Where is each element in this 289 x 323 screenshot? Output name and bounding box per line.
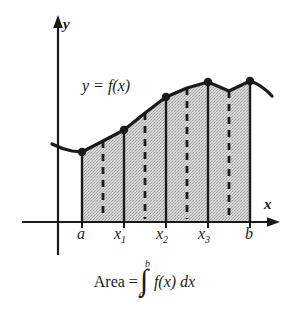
tick-label-a-text: a	[77, 225, 85, 242]
y-axis-label: y	[63, 17, 70, 32]
x-axis-label: x	[264, 197, 272, 212]
tick-label-b-text: b	[245, 225, 253, 242]
tick-label-x3-subscript: 3	[205, 234, 210, 245]
tick-label-x2-subscript: 2	[163, 234, 168, 245]
tick-label-b: b	[245, 226, 253, 242]
tick-label-x2: x2	[156, 226, 168, 245]
integral-area-figure: y x y = f(x) a x1 x2 x3 b Area =b∫af(x) …	[0, 0, 289, 323]
curve-point-b	[246, 77, 254, 85]
curve-point-x1	[120, 126, 128, 134]
integral-lower-limit: a	[139, 288, 144, 299]
curve-point-x2	[162, 93, 170, 101]
tick-label-x1-subscript: 1	[121, 234, 126, 245]
tick-label-x3: x3	[198, 226, 210, 245]
caption-integrand: f(x) dx	[154, 273, 195, 290]
curve-equation-label: y = f(x)	[82, 78, 130, 94]
area-integral-caption: Area =b∫af(x) dx	[0, 268, 289, 298]
y-axis-arrowhead	[53, 15, 63, 28]
integral-expression: b∫a	[138, 268, 154, 298]
caption-area-text: Area =	[94, 273, 138, 290]
curve-point-a	[78, 148, 86, 156]
x-axis-arrowhead	[267, 217, 280, 227]
curve-point-x3	[204, 78, 212, 86]
tick-label-x1: x1	[114, 226, 126, 245]
tick-label-a: a	[77, 226, 85, 242]
